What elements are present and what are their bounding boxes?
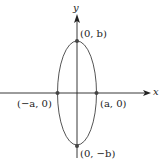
point-bottom [75,144,79,148]
y-axis-label: y [73,3,79,13]
label-bottom: (0, −b) [80,149,115,159]
label-right: (a, 0) [100,99,126,109]
point-top [75,39,79,43]
label-top: (0, b) [80,29,107,39]
label-left: (−a, 0) [17,99,52,109]
point-right [95,91,99,95]
ellipse-diagram [0,0,162,162]
x-axis-label: x [153,87,159,97]
point-left [56,91,60,95]
